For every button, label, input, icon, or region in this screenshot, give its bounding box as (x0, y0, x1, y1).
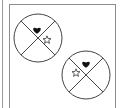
heart-icon (82, 62, 90, 68)
star-icon (72, 69, 80, 77)
circle-2 (62, 51, 110, 99)
heart-icon (33, 28, 41, 34)
quadrant-circles-figure (0, 0, 120, 108)
circle-1 (14, 14, 62, 62)
star-icon (43, 36, 51, 44)
